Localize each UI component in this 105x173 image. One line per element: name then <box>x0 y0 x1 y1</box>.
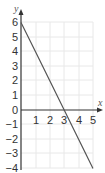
x-axis-label: x <box>97 97 103 108</box>
line-chart: y x 6 5 4 3 2 1 0 −1 −2 −3 −4 1 2 3 4 5 <box>0 0 105 173</box>
y-tick-label: −4 <box>5 162 18 173</box>
y-tick-labels: 6 5 4 3 2 1 0 −1 −2 −3 −4 <box>5 16 18 173</box>
y-axis-label: y <box>13 3 19 14</box>
x-tick-label: 2 <box>47 114 53 126</box>
y-axis-arrow-icon <box>19 9 24 15</box>
y-tick-label: 1 <box>12 89 18 101</box>
x-axis-arrow-icon <box>97 108 103 113</box>
x-tick-label: 4 <box>76 114 82 126</box>
y-tick-label: 4 <box>12 45 18 57</box>
y-tick-label: 2 <box>12 74 18 86</box>
x-tick-label: 3 <box>61 114 67 126</box>
y-tick-label: 0 <box>12 104 18 116</box>
y-tick-label: −1 <box>5 118 18 130</box>
y-tick-label: −3 <box>5 147 18 159</box>
x-tick-label: 1 <box>33 114 39 126</box>
y-tick-label: 6 <box>12 16 18 28</box>
y-tick-label: 3 <box>12 60 18 72</box>
x-tick-label: 5 <box>90 114 96 126</box>
y-tick-label: 5 <box>12 31 18 43</box>
y-tick-label: −2 <box>5 133 18 145</box>
